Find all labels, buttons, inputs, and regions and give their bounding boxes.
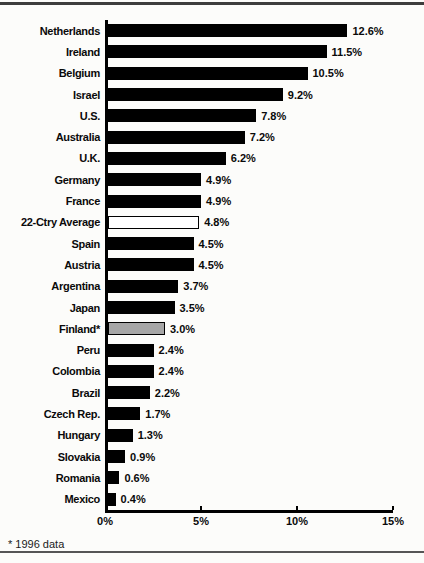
- category-label: France: [6, 195, 105, 207]
- value-label: 11.5%: [332, 46, 363, 58]
- bar-track: 2.4%: [105, 339, 393, 360]
- value-label: 3.5%: [180, 302, 205, 314]
- bar: [108, 45, 327, 58]
- bar-track: 9.2%: [105, 84, 393, 105]
- bar: [108, 258, 194, 271]
- category-label: Peru: [6, 344, 105, 356]
- bar: [108, 173, 201, 186]
- category-label: Ireland: [6, 46, 105, 58]
- value-label: 4.5%: [199, 259, 224, 271]
- bar-row: Finland*3.0%: [6, 318, 393, 339]
- bar: [108, 109, 256, 122]
- bar: [108, 386, 150, 399]
- category-label: Hungary: [6, 429, 105, 441]
- bar: [108, 471, 119, 484]
- value-label: 4.5%: [199, 238, 224, 250]
- bar-row: Peru2.4%: [6, 339, 393, 360]
- bar: [108, 280, 178, 293]
- bottom-rule: [0, 551, 424, 553]
- bar: [108, 450, 125, 463]
- value-label: 0.9%: [130, 451, 155, 463]
- x-axis-tick: [200, 506, 202, 510]
- bar: [108, 88, 283, 101]
- bar-row: Germany4.9%: [6, 169, 393, 190]
- bar-track: 0.6%: [105, 467, 393, 488]
- chart-footnote: * 1996 data: [8, 538, 393, 550]
- value-label: 2.4%: [159, 344, 184, 356]
- bar-track: 4.9%: [105, 190, 393, 211]
- bar-row: Czech Rep.1.7%: [6, 403, 393, 424]
- category-label: Germany: [6, 174, 105, 186]
- category-label: Argentina: [6, 280, 105, 292]
- x-axis-tick-label: 5%: [193, 515, 209, 527]
- bar: [108, 67, 308, 80]
- value-label: 4.9%: [206, 174, 231, 186]
- category-label: Czech Rep.: [6, 408, 105, 420]
- category-label: Mexico: [6, 493, 105, 505]
- bar-track: 3.5%: [105, 297, 393, 318]
- bar-row: Austria4.5%: [6, 254, 393, 275]
- bar: [108, 407, 140, 420]
- category-label: Japan: [6, 302, 105, 314]
- category-label: Slovakia: [6, 451, 105, 463]
- bar-track: 4.5%: [105, 254, 393, 275]
- category-label: Netherlands: [6, 25, 105, 37]
- x-axis-tick: [296, 506, 298, 510]
- country-bar-chart: Netherlands12.6%Ireland11.5%Belgium10.5%…: [6, 20, 393, 550]
- category-label: U.K.: [6, 152, 105, 164]
- category-label: Austria: [6, 259, 105, 271]
- x-axis-tick-label: 0%: [97, 515, 113, 527]
- bar: [108, 429, 133, 442]
- bar: [108, 301, 175, 314]
- bar-track: 6.2%: [105, 148, 393, 169]
- value-label: 1.3%: [138, 429, 163, 441]
- bar-track: 7.8%: [105, 105, 393, 126]
- x-axis-tick: [392, 506, 394, 510]
- x-axis-line: [105, 510, 393, 513]
- bar-track: 4.8%: [105, 212, 393, 233]
- category-label: Belgium: [6, 67, 105, 79]
- bar-track: 11.5%: [105, 41, 393, 62]
- bar-row: Spain4.5%: [6, 233, 393, 254]
- bar-row: Hungary1.3%: [6, 425, 393, 446]
- bar: [108, 24, 347, 37]
- value-label: 2.2%: [155, 387, 180, 399]
- bar-track: 2.2%: [105, 382, 393, 403]
- bar-row: Japan3.5%: [6, 297, 393, 318]
- category-label: Brazil: [6, 387, 105, 399]
- bar: [108, 152, 226, 165]
- category-label: Romania: [6, 472, 105, 484]
- bar-track: 7.2%: [105, 126, 393, 147]
- value-label: 6.2%: [231, 152, 256, 164]
- bar-row: Argentina3.7%: [6, 276, 393, 297]
- value-label: 1.7%: [145, 408, 170, 420]
- value-label: 3.0%: [170, 323, 195, 335]
- bar-row: Colombia2.4%: [6, 361, 393, 382]
- value-label: 4.9%: [206, 195, 231, 207]
- bar-row: Romania0.6%: [6, 467, 393, 488]
- bar-track: 1.3%: [105, 425, 393, 446]
- bar-track: 10.5%: [105, 63, 393, 84]
- category-label: Spain: [6, 238, 105, 250]
- bar: [108, 365, 154, 378]
- bar: [108, 131, 245, 144]
- bar: [108, 237, 194, 250]
- bar: [108, 216, 199, 229]
- value-label: 10.5%: [313, 67, 344, 79]
- bar-row: Australia7.2%: [6, 126, 393, 147]
- category-label: U.S.: [6, 110, 105, 122]
- bar-track: 2.4%: [105, 361, 393, 382]
- bar: [108, 195, 201, 208]
- value-label: 7.2%: [250, 131, 275, 143]
- bar-row: France4.9%: [6, 190, 393, 211]
- chart-page: Netherlands12.6%Ireland11.5%Belgium10.5%…: [0, 0, 424, 563]
- bar-row: Netherlands12.6%: [6, 20, 393, 41]
- value-label: 7.8%: [261, 110, 286, 122]
- bar-row: 22-Ctry Average4.8%: [6, 212, 393, 233]
- value-label: 0.4%: [121, 493, 146, 505]
- bar-row: Israel9.2%: [6, 84, 393, 105]
- bar-row: Ireland11.5%: [6, 41, 393, 62]
- x-axis-tick-label: 15%: [382, 515, 404, 527]
- bar-row: Slovakia0.9%: [6, 446, 393, 467]
- bar: [108, 493, 116, 506]
